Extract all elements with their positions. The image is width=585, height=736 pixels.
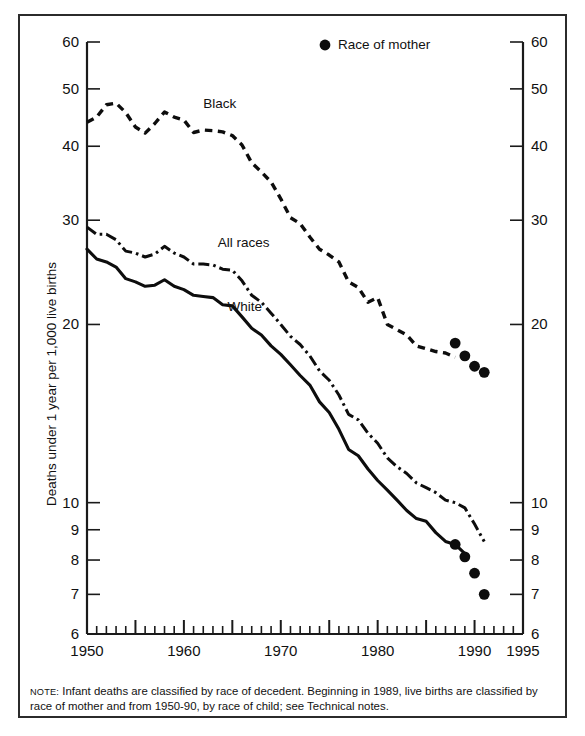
- chart-area: 6789102030405060 6789102030405060 195019…: [20, 16, 565, 676]
- y-tick-label-left: 40: [62, 137, 79, 154]
- legend: Race of mother: [320, 37, 431, 52]
- y-tick-label-left: 6: [71, 625, 79, 642]
- x-tick-label: 1970: [264, 642, 297, 659]
- legend-marker-icon: [320, 40, 331, 51]
- marker-point: [459, 551, 470, 562]
- y-axis-right-ticks: [510, 42, 523, 594]
- x-tick-label: 1960: [167, 642, 200, 659]
- y-tick-label-right: 20: [531, 315, 548, 332]
- y-tick-label-left: 60: [62, 33, 79, 50]
- series-line-black: [87, 103, 455, 357]
- note-text: Infant deaths are classified by race of …: [30, 685, 538, 712]
- marker-point: [450, 539, 461, 550]
- marker-point: [469, 568, 480, 579]
- y-tick-label-left: 8: [71, 551, 79, 568]
- series-line-all-races: [87, 227, 484, 541]
- x-tick-label: 1990: [458, 642, 491, 659]
- series-line-white: [87, 249, 465, 553]
- x-tick-label: 1995: [506, 642, 539, 659]
- marker-point: [459, 350, 470, 361]
- infant-mortality-line-chart: 6789102030405060 6789102030405060 195019…: [20, 16, 565, 676]
- y-tick-label-left: 10: [62, 494, 79, 511]
- series-labels: BlackAll racesWhite: [203, 96, 270, 314]
- x-tick-label: 1980: [361, 642, 394, 659]
- marker-point: [479, 367, 490, 378]
- y-tick-label-right: 6: [531, 625, 539, 642]
- chart-note: NOTE: Infant deaths are classified by ra…: [30, 684, 555, 714]
- legend-label: Race of mother: [338, 37, 431, 52]
- y-tick-label-left: 20: [62, 315, 79, 332]
- y-tick-label-left: 50: [62, 80, 79, 97]
- y-axis-title-text: Deaths under 1 year per 1,000 live birth…: [44, 262, 59, 506]
- data-series: [87, 103, 484, 554]
- y-axis-title: Deaths under 1 year per 1,000 live birth…: [44, 262, 59, 506]
- marker-point: [469, 361, 480, 372]
- x-axis-ticks: [97, 620, 514, 634]
- series-label-black: Black: [203, 96, 236, 111]
- x-tick-label: 1950: [70, 642, 103, 659]
- y-tick-label-right: 30: [531, 211, 548, 228]
- y-tick-label-right: 7: [531, 585, 539, 602]
- y-axis-left-ticks: [87, 42, 100, 594]
- y-tick-label-right: 8: [531, 551, 539, 568]
- marker-point: [479, 589, 490, 600]
- y-tick-label-right: 10: [531, 494, 548, 511]
- y-tick-label-right: 9: [531, 521, 539, 538]
- y-axis-left-labels: 6789102030405060: [62, 33, 79, 642]
- y-tick-label-right: 60: [531, 33, 548, 50]
- y-tick-label-right: 50: [531, 80, 548, 97]
- series-label-white: White: [227, 299, 262, 314]
- y-tick-label-left: 9: [71, 521, 79, 538]
- y-tick-label-left: 30: [62, 211, 79, 228]
- y-tick-label-left: 7: [71, 585, 79, 602]
- series-label-all_races: All races: [218, 235, 270, 250]
- figure-frame: 6789102030405060 6789102030405060 195019…: [18, 14, 567, 718]
- marker-point: [450, 338, 461, 349]
- y-axis-right-labels: 6789102030405060: [531, 33, 548, 642]
- race-of-mother-markers: [450, 338, 490, 600]
- y-tick-label-right: 40: [531, 137, 548, 154]
- x-axis-labels: 195019601970198019901995: [70, 642, 539, 659]
- note-label: NOTE:: [30, 687, 59, 697]
